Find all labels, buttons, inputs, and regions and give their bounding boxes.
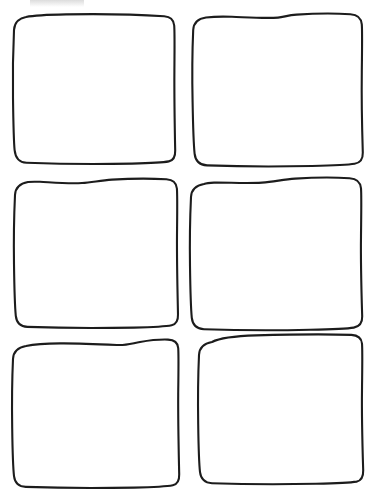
panel-6[interactable] [198,334,363,484]
panel-sheet: Six empty hand-drawn rounded rectangle p… [0,0,375,495]
panel-grid [0,0,375,495]
panel-1[interactable] [13,14,175,164]
panel-2[interactable] [192,14,362,167]
panel-3-area[interactable] [15,180,177,326]
panel-4-area[interactable] [192,179,361,328]
panel-1-area[interactable] [14,16,174,162]
panel-5[interactable] [12,340,179,488]
panel-6-area[interactable] [199,337,363,483]
panel-2-area[interactable] [194,15,362,165]
panel-5-area[interactable] [13,341,178,486]
panel-4[interactable] [190,178,362,331]
panel-3[interactable] [14,179,178,328]
